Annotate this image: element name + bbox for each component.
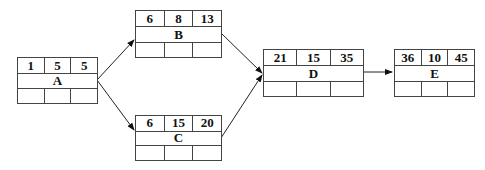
node-d: 21 15 35 D <box>263 49 364 97</box>
node-a-ef: 5 <box>70 58 97 73</box>
node-e-es: 36 <box>395 50 421 65</box>
node-c-label: C <box>136 132 221 146</box>
node-c-es: 6 <box>136 116 164 131</box>
node-d-lf <box>330 82 363 96</box>
node-e-ls <box>395 82 421 96</box>
node-d-duration: 15 <box>296 50 329 65</box>
node-c: 6 15 20 C <box>135 115 222 161</box>
edge-a-c <box>97 80 134 130</box>
edge-a-b <box>97 40 134 80</box>
node-e-label: E <box>395 66 474 80</box>
node-a: 1 5 5 A <box>17 57 98 104</box>
node-a-slack <box>44 89 71 103</box>
node-e-duration: 10 <box>421 50 448 65</box>
node-a-es: 1 <box>18 58 44 73</box>
node-d-es: 21 <box>264 50 296 65</box>
node-c-ls <box>136 146 164 160</box>
node-d-ls <box>264 82 296 96</box>
node-a-duration: 5 <box>44 58 71 73</box>
node-c-duration: 15 <box>164 116 193 131</box>
node-a-ls <box>18 89 44 103</box>
node-a-label: A <box>18 74 97 88</box>
node-e-ef: 45 <box>447 50 474 65</box>
node-b-label: B <box>136 27 221 41</box>
node-e: 36 10 45 E <box>394 49 475 97</box>
node-b-lf <box>192 43 221 57</box>
node-b: 6 8 13 B <box>135 10 222 58</box>
node-b-es: 6 <box>136 11 164 26</box>
node-d-ef: 35 <box>330 50 363 65</box>
node-e-slack <box>421 82 448 96</box>
node-a-lf <box>70 89 97 103</box>
node-b-ef: 13 <box>192 11 221 26</box>
node-d-label: D <box>264 66 363 80</box>
edge-c-d <box>221 75 262 138</box>
node-c-slack <box>164 146 193 160</box>
node-c-lf <box>192 146 221 160</box>
node-b-duration: 8 <box>164 11 193 26</box>
node-b-ls <box>136 43 164 57</box>
node-d-slack <box>296 82 329 96</box>
node-e-lf <box>447 82 474 96</box>
edge-b-d <box>221 33 262 73</box>
node-c-ef: 20 <box>192 116 221 131</box>
node-b-slack <box>164 43 193 57</box>
